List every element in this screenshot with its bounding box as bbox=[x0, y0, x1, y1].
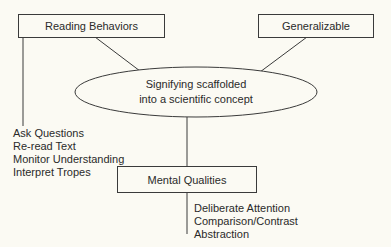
generalizable-node: Generalizable bbox=[258, 14, 374, 38]
list-item: Deliberate Attention bbox=[194, 202, 298, 215]
reading-behaviors-label: Reading Behaviors bbox=[45, 20, 138, 32]
reading-behaviors-list: Ask Questions Re-read Text Monitor Under… bbox=[13, 127, 124, 179]
list-item: Monitor Understanding bbox=[13, 153, 124, 166]
list-item: Interpret Tropes bbox=[13, 166, 124, 179]
edge-reading-to-center bbox=[95, 37, 140, 71]
generalizable-label: Generalizable bbox=[282, 20, 350, 32]
edge-generalizable-to-center bbox=[260, 37, 307, 72]
center-node-label: Signifying scaffolded into a scientific … bbox=[96, 77, 296, 107]
center-label-line-2: into a scientific concept bbox=[96, 92, 296, 107]
list-item: Comparison/Contrast bbox=[194, 215, 298, 228]
list-item: Re-read Text bbox=[13, 140, 124, 153]
reading-behaviors-node: Reading Behaviors bbox=[18, 14, 165, 38]
mental-qualities-node: Mental Qualities bbox=[117, 166, 257, 193]
mental-qualities-list: Deliberate Attention Comparison/Contrast… bbox=[194, 202, 298, 241]
mental-qualities-label: Mental Qualities bbox=[148, 174, 227, 186]
list-item: Abstraction bbox=[194, 228, 298, 241]
list-item: Ask Questions bbox=[13, 127, 124, 140]
center-label-line-1: Signifying scaffolded bbox=[96, 77, 296, 92]
